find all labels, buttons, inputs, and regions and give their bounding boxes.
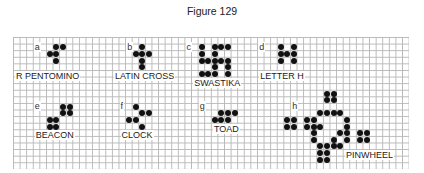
live-cell-dot [344,124,350,130]
live-cell-dot [331,137,337,143]
live-cell-dot [212,51,218,57]
pattern-letter: h [291,101,298,111]
pattern-letter: c [186,42,193,52]
live-cell-dot [225,58,231,64]
live-cell-dot [47,124,53,130]
pattern-letter: d [258,42,265,52]
live-cell-dot [291,51,297,57]
live-cell-dot [225,71,231,77]
figure-title: Figure 129 [0,5,424,17]
live-cell-dot [139,58,145,64]
live-cell-dot [212,58,218,64]
live-cell-dot [146,51,152,57]
live-cell-dot [133,51,139,57]
live-cell-dot [311,130,317,136]
live-cell-dot [331,97,337,103]
grid-background [13,37,409,169]
live-cell-dot [311,124,317,130]
live-cell-dot [60,104,66,110]
pattern-letter: f [120,101,125,111]
pattern-label: CLOCK [121,130,154,140]
pattern-label: PINWHEEL [345,150,394,160]
live-cell-dot [344,117,350,123]
live-cell-dot [225,117,231,123]
pattern-label: TOAD [213,124,240,134]
live-cell-dot [139,124,145,130]
live-cell-dot [291,58,297,64]
live-cell-dot [199,71,205,77]
live-cell-dot [364,137,370,143]
live-cell-dot [278,51,284,57]
live-cell-dot [311,137,317,143]
live-cell-dot [205,58,211,64]
live-cell-dot [133,117,139,123]
live-cell-dot [324,150,330,156]
live-cell-dot [212,71,218,77]
live-cell-dot [331,91,337,97]
live-cell-dot [278,58,284,64]
live-cell-dot [133,104,139,110]
pattern-letter: e [34,101,41,111]
pattern-letter: b [126,42,133,52]
live-cell-dot [324,91,330,97]
live-cell-dot [199,51,205,57]
live-cell-dot [324,157,330,163]
pattern-label: LATIN CROSS [114,71,175,81]
pattern-label: BEACON [35,130,75,140]
live-cell-dot [311,117,317,123]
live-cell-dot [291,117,297,123]
live-cell-dot [344,137,350,143]
live-cell-dot [205,71,211,77]
live-cell-dot [364,130,370,136]
pattern-label: LETTER H [259,71,305,81]
live-cell-dot [291,124,297,130]
live-cell-dot [344,130,350,136]
live-cell-dot [212,64,218,70]
pattern-letter: a [34,42,41,52]
live-cell-dot [212,117,218,123]
pattern-label: SWASTIKA [193,78,241,88]
live-cell-dot [47,51,53,57]
live-cell-dot [47,117,53,123]
live-cell-dot [126,117,132,123]
live-cell-dot [357,137,363,143]
pattern-letter: g [199,101,206,111]
live-cell-dot [199,58,205,64]
live-cell-dot [304,124,310,130]
live-cell-dot [67,104,73,110]
pattern-label: R PENTOMINO [15,71,80,81]
